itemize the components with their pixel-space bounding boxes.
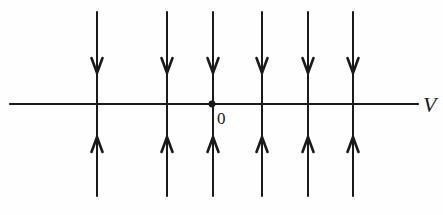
origin-group [209, 101, 216, 108]
origin-label: 0 [217, 109, 226, 128]
phase-line-figure: 0 V [0, 0, 443, 215]
direction-field-canvas: 0 V [0, 0, 443, 215]
axis-label-v: V [423, 92, 439, 117]
origin-dot [209, 101, 216, 108]
